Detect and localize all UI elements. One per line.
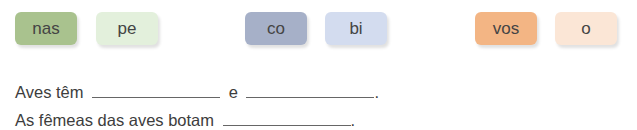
tile-text: nas [32, 19, 59, 39]
sentence-period: . [374, 83, 379, 101]
sentence-period: . [351, 111, 356, 129]
tile-text: co [267, 19, 285, 39]
sentence-text: e [229, 83, 238, 101]
tile-nas: nas [15, 12, 77, 45]
tile-text: o [581, 19, 590, 39]
tile-text: vos [493, 19, 519, 39]
answer-blank-2[interactable] [246, 96, 374, 98]
tile-bi: bi [325, 12, 387, 45]
tile-o: o [555, 12, 617, 45]
sentence-1: Aves têm e . [15, 83, 379, 102]
tile-text: bi [349, 19, 362, 39]
tile-co: co [245, 12, 307, 45]
sentence-text: As fêmeas das aves botam [15, 111, 214, 129]
tile-vos: vos [475, 12, 537, 45]
tile-text: pe [118, 19, 137, 39]
sentence-text: Aves têm [15, 83, 83, 101]
sentence-2: As fêmeas das aves botam . [15, 111, 355, 130]
tile-pe: pe [96, 12, 158, 45]
answer-blank-3[interactable] [223, 124, 351, 126]
answer-blank-1[interactable] [92, 96, 220, 98]
